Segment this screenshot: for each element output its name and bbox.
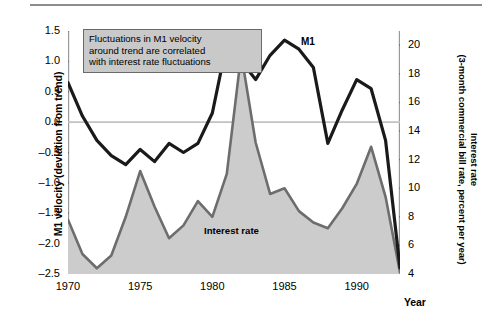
right-axis-tick-label: 8	[408, 210, 432, 222]
annotation-line-2: around trend are correlated	[89, 45, 256, 57]
left-axis-tick-label: 1.5	[30, 24, 60, 36]
interest-rate-area	[68, 54, 400, 274]
right-axis-tick-label: 12	[408, 153, 432, 165]
right-axis-tick-label: 6	[408, 238, 432, 250]
right-axis-tick-label: 16	[408, 95, 432, 107]
left-axis-tick-label: 0.5	[30, 85, 60, 97]
right-axis-title-line2: (3-month commercial bill rate, percent p…	[457, 40, 469, 280]
interest-rate-series-label: Interest rate	[204, 225, 259, 236]
annotation-line-3: with interest rate fluctuations	[89, 56, 256, 68]
x-axis-title: Year	[404, 296, 426, 308]
right-axis-tick-label: 20	[408, 38, 432, 50]
x-axis-tick-label: 1970	[48, 280, 88, 292]
m1-series-label: M1	[301, 36, 315, 47]
right-axis-tick-label: 4	[408, 267, 432, 279]
chart-figure: M1 velocity (deviation from trend) Inter…	[0, 0, 500, 321]
left-axis-tick-label: –1.5	[30, 206, 60, 218]
x-axis-tick-label: 1990	[337, 280, 377, 292]
left-axis-tick-label: –1.0	[30, 176, 60, 188]
left-axis-tick-label: –2.0	[30, 237, 60, 249]
left-axis-tick-label: –0.5	[30, 146, 60, 158]
annotation-callout: Fluctuations in M1 velocity around trend…	[83, 29, 262, 73]
x-axis-tick-label: 1985	[265, 280, 305, 292]
left-axis-tick-label: –2.5	[30, 267, 60, 279]
left-axis-tick-label: 0.0	[30, 115, 60, 127]
top-divider	[30, 4, 482, 6]
right-axis-title: Interest rate (3-month commercial bill r…	[457, 40, 480, 280]
right-axis-tick-label: 18	[408, 67, 432, 79]
right-axis-title-line1: Interest rate	[469, 133, 480, 186]
left-axis-tick-label: 1.0	[30, 54, 60, 66]
annotation-line-1: Fluctuations in M1 velocity	[89, 33, 256, 45]
x-axis-tick-label: 1980	[192, 280, 232, 292]
right-axis-tick-label: 10	[408, 181, 432, 193]
right-axis-tick-label: 14	[408, 124, 432, 136]
x-axis-tick-label: 1975	[120, 280, 160, 292]
